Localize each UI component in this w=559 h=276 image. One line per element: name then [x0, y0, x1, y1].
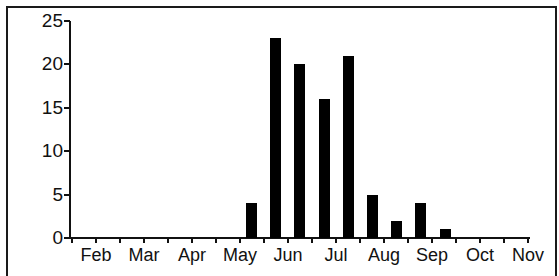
bar [415, 203, 426, 238]
bar [391, 221, 402, 238]
bar [343, 56, 354, 238]
x-tick [263, 238, 265, 243]
x-tick-label: Feb [80, 245, 111, 266]
y-tick [64, 63, 70, 65]
x-tick [167, 238, 169, 243]
x-tick [479, 238, 481, 243]
y-tick-label: 5 [52, 185, 63, 204]
y-tick-label: 20 [42, 54, 63, 73]
bar [367, 195, 378, 238]
chart-frame [6, 6, 557, 276]
x-tick [71, 238, 73, 243]
y-axis [69, 21, 71, 239]
x-tick-label: Oct [466, 245, 494, 266]
x-tick-label: May [223, 245, 257, 266]
x-tick-label: Jul [324, 245, 347, 266]
x-tick [383, 238, 385, 243]
y-tick-label: 0 [52, 228, 63, 247]
y-tick-label: 10 [42, 141, 63, 160]
y-tick [64, 237, 70, 239]
x-tick [503, 238, 505, 243]
x-tick-label: Aug [368, 245, 400, 266]
x-tick [431, 238, 433, 243]
x-tick-label: Sep [416, 245, 448, 266]
x-tick-label: Nov [512, 245, 544, 266]
y-tick [64, 20, 70, 22]
bar [319, 99, 330, 238]
y-tick [64, 150, 70, 152]
x-tick [191, 238, 193, 243]
x-tick [335, 238, 337, 243]
x-tick [527, 238, 529, 243]
x-tick [359, 238, 361, 243]
x-tick [143, 238, 145, 243]
x-tick [455, 238, 457, 243]
x-tick [119, 238, 121, 243]
y-tick-label: 15 [42, 98, 63, 117]
x-tick [215, 238, 217, 243]
x-tick-label: Apr [178, 245, 206, 266]
x-tick-label: Jun [273, 245, 302, 266]
x-tick [407, 238, 409, 243]
y-tick [64, 194, 70, 196]
bar [246, 203, 257, 238]
x-tick [287, 238, 289, 243]
bar [440, 229, 451, 238]
bar [270, 38, 281, 238]
x-tick [239, 238, 241, 243]
x-tick [95, 238, 97, 243]
x-tick [311, 238, 313, 243]
y-tick-label: 25 [42, 11, 63, 30]
x-tick-label: Mar [129, 245, 160, 266]
bar [294, 64, 305, 238]
y-tick [64, 107, 70, 109]
